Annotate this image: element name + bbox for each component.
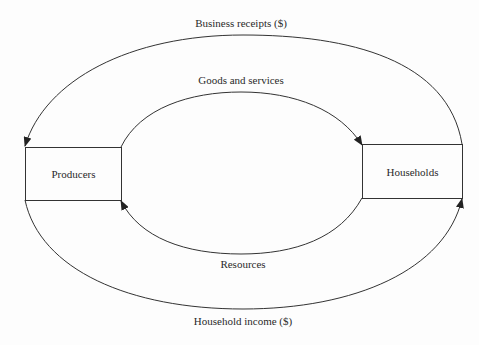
household-income-label: Household income ($) xyxy=(194,315,292,327)
producers-node: Producers xyxy=(25,147,122,201)
producers-label: Producers xyxy=(52,168,96,180)
goods-and-services-flow xyxy=(121,92,362,147)
goods-and-services-label: Goods and services xyxy=(198,74,284,86)
resources-flow xyxy=(121,198,362,254)
circular-flow-diagram: Producers Households Business receipts (… xyxy=(0,0,479,345)
households-label: Households xyxy=(387,166,439,178)
business-receipts-label: Business receipts ($) xyxy=(195,17,287,29)
business-receipts-flow xyxy=(25,35,462,146)
households-node: Households xyxy=(362,144,463,199)
resources-label: Resources xyxy=(220,258,265,270)
